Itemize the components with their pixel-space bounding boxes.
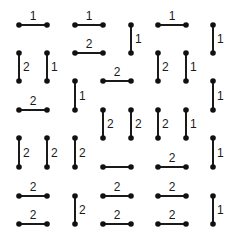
segment-label: 2 [162, 60, 169, 74]
segment-h-c0-r0: 1 [16, 9, 50, 28]
dot-node [72, 193, 78, 199]
dot-node [16, 50, 22, 56]
segment-label: 1 [169, 9, 176, 23]
segment-label: 1 [79, 89, 86, 103]
dot-node [128, 107, 134, 113]
segment-v-c1-r1: 1 [44, 50, 58, 84]
dot-node [16, 135, 22, 141]
segment-label: 1 [51, 60, 58, 74]
dot-node [16, 193, 22, 199]
dot-node [210, 50, 216, 56]
segment-h-c5-r7: 2 [155, 208, 189, 227]
dot-node [72, 50, 78, 56]
dot-node [128, 135, 134, 141]
dot-node [155, 22, 161, 28]
segment-label: 1 [217, 203, 224, 217]
segment-layer: 1111121221121222212221222221222 [16, 9, 224, 227]
dot-node [155, 78, 161, 84]
dot-node [72, 135, 78, 141]
dot-node [128, 78, 134, 84]
segment-label: 2 [162, 117, 169, 131]
segment-h-c2-r1: 2 [72, 37, 106, 56]
segment-v-c4-r3: 2 [128, 107, 142, 141]
segment-label: 2 [79, 203, 86, 217]
segment-h-c3-r2: 2 [100, 65, 134, 84]
dot-node [128, 221, 134, 227]
dot-node [155, 193, 161, 199]
dot-node [210, 78, 216, 84]
segment-v-c3-r3: 2 [100, 107, 114, 141]
segment-v-c7-r0: 1 [210, 22, 224, 56]
segment-label: 2 [114, 65, 121, 79]
segment-v-c2-r4: 2 [72, 135, 86, 170]
segment-label: 2 [169, 180, 176, 194]
dot-node [44, 193, 50, 199]
segment-label: 1 [190, 117, 197, 131]
segment-label: 2 [23, 60, 30, 74]
segment-label: 2 [114, 208, 121, 222]
segment-label: 1 [217, 32, 224, 46]
segment-v-c2-r2: 1 [72, 78, 86, 113]
segment-h-c5-r6: 2 [155, 180, 189, 199]
dot-segment-puzzle: 1111121221121222212221222221222 [0, 0, 235, 241]
segment-v-c5-r3: 2 [155, 107, 169, 141]
dot-node [100, 50, 106, 56]
dot-node [100, 22, 106, 28]
dot-node [16, 78, 22, 84]
segment-label: 2 [30, 180, 37, 194]
dot-node [183, 50, 189, 56]
segment-h-c5-r0: 1 [155, 9, 189, 28]
dot-node [100, 193, 106, 199]
segment-h-c0-r6: 2 [16, 180, 50, 199]
segment-label: 1 [190, 60, 197, 74]
dot-node [210, 107, 216, 113]
dot-node [44, 107, 50, 113]
dot-node [72, 22, 78, 28]
segment-label: 2 [135, 117, 142, 131]
dot-node [183, 78, 189, 84]
dot-node [100, 221, 106, 227]
dot-node [183, 135, 189, 141]
dot-node [100, 135, 106, 141]
dot-node [44, 164, 50, 170]
segment-label: 2 [114, 180, 121, 194]
dot-node [210, 193, 216, 199]
dot-node [183, 221, 189, 227]
dot-node [183, 193, 189, 199]
dot-node [16, 22, 22, 28]
dot-node [210, 221, 216, 227]
segment-h-c0-r3: 2 [16, 94, 50, 113]
segment-v-c4-r0: 1 [128, 22, 142, 56]
dot-node [72, 107, 78, 113]
segment-label: 2 [169, 208, 176, 222]
segment-label: 2 [30, 94, 37, 108]
dot-node [210, 22, 216, 28]
dot-node [128, 193, 134, 199]
dot-node [44, 78, 50, 84]
segment-h-c5-r5: 2 [155, 151, 189, 170]
dot-node [44, 22, 50, 28]
dot-node [128, 50, 134, 56]
segment-v-c7-r6: 1 [210, 193, 224, 227]
segment-label: 1 [135, 32, 142, 46]
dot-node [155, 50, 161, 56]
segment-v-c0-r1: 2 [16, 50, 30, 84]
segment-label: 2 [169, 151, 176, 165]
dot-node [72, 164, 78, 170]
segment-h-c3-r5 [100, 164, 134, 170]
segment-v-c6-r3: 1 [183, 107, 197, 141]
segment-label: 2 [30, 208, 37, 222]
segment-label: 2 [86, 37, 93, 51]
segment-label: 2 [51, 146, 58, 160]
segment-v-c7-r2: 1 [210, 78, 224, 113]
segment-label: 1 [86, 9, 93, 23]
dot-node [16, 221, 22, 227]
dot-node [44, 50, 50, 56]
dot-node [155, 164, 161, 170]
segment-v-c6-r1: 1 [183, 50, 197, 84]
segment-h-c0-r7: 2 [16, 208, 50, 227]
dot-node [72, 221, 78, 227]
dot-node [44, 221, 50, 227]
dot-node [210, 135, 216, 141]
dot-node [155, 135, 161, 141]
